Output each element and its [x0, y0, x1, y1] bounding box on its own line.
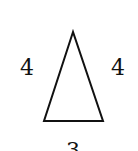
base-label: 3: [66, 138, 80, 151]
triangle-diagram: 4 4 3: [0, 0, 138, 151]
right-side-label: 4: [111, 55, 125, 80]
left-side-label: 4: [20, 55, 34, 80]
triangle: [44, 32, 103, 121]
